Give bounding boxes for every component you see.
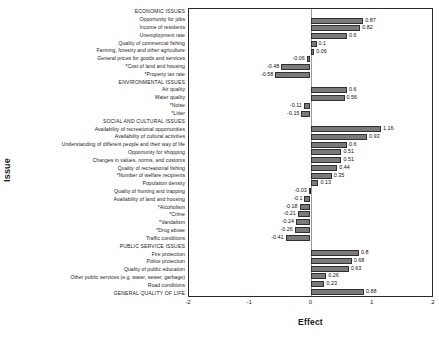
bar-row: -0.58 xyxy=(189,71,432,79)
bar-value-label: 0.1 xyxy=(319,41,327,46)
bar-row: 0.26 xyxy=(189,273,432,281)
bar-value-label: 0.51 xyxy=(343,157,354,162)
category-label: Opportunity for shopping xyxy=(12,149,187,157)
bar-row: 0.1 xyxy=(189,40,432,48)
bar-value-label: 0.88 xyxy=(366,289,377,294)
bar-row: -0.21 xyxy=(189,211,432,219)
bar-row xyxy=(189,9,432,17)
bar xyxy=(311,95,345,101)
category-label: Availability of land and housing xyxy=(12,196,187,204)
category-label: Quality of commercial fishing xyxy=(12,39,187,47)
bar xyxy=(275,72,310,78)
bar-row: 0.6 xyxy=(189,32,432,40)
bar xyxy=(311,25,361,31)
category-label: Police protection xyxy=(12,258,187,266)
bar-row: 0.51 xyxy=(189,149,432,157)
category-label: Traffic conditions xyxy=(12,235,187,243)
bar-value-label: 0.23 xyxy=(326,281,337,286)
bar xyxy=(295,227,311,233)
bar xyxy=(296,219,311,225)
bar-value-label: 0.26 xyxy=(328,274,339,279)
bar-value-label: -0.24 xyxy=(282,219,294,224)
bar-row: 0.06 xyxy=(189,48,432,56)
category-label: *Number of welfare recipients xyxy=(12,172,187,180)
bar-value-label: 0.13 xyxy=(320,181,331,186)
bar xyxy=(311,49,315,55)
bar xyxy=(311,258,352,264)
category-label: SOCIAL AND CULTURAL ISSUES xyxy=(12,117,187,125)
x-axis-tick-label: 0 xyxy=(309,299,312,305)
bar-value-label: 0.8 xyxy=(361,250,369,255)
bar-value-label: 0.35 xyxy=(334,173,345,178)
bar-row: 0.13 xyxy=(189,180,432,188)
bar xyxy=(311,134,367,140)
bar-value-label: -0.26 xyxy=(280,227,292,232)
bar-row: 0.68 xyxy=(189,257,432,265)
bar xyxy=(311,157,342,163)
category-label: *Cost of land and housing xyxy=(12,63,187,71)
bar xyxy=(311,33,347,39)
bar-row: -0.06 xyxy=(189,56,432,64)
bar-value-label: -0.06 xyxy=(293,57,305,62)
bar-row: 0.87 xyxy=(189,17,432,25)
bar-row xyxy=(189,118,432,126)
bar-row: -0.03 xyxy=(189,187,432,195)
category-label: Air quality xyxy=(12,86,187,94)
category-label: Income of residents xyxy=(12,24,187,32)
bar-row: 0.8 xyxy=(189,249,432,257)
bar-value-label: 0.51 xyxy=(343,150,354,155)
bar-value-label: 0.56 xyxy=(347,95,358,100)
category-label: General prices for goods and services xyxy=(12,55,187,63)
category-label: Water quality xyxy=(12,94,187,102)
category-label: Fire protection xyxy=(12,250,187,258)
bar-row: 0.93 xyxy=(189,133,432,141)
category-label: ECONOMIC ISSUES xyxy=(12,8,187,16)
x-axis-ticks: -2-1012 xyxy=(188,299,433,311)
category-label: Availability of recreational opportuniti… xyxy=(12,125,187,133)
category-label: *Vandalism xyxy=(12,219,187,227)
bar xyxy=(307,56,311,62)
bar xyxy=(281,64,310,70)
category-label: *Property tax rate xyxy=(12,71,187,79)
bar-row: 0.6 xyxy=(189,87,432,95)
category-label: PUBLIC SERVICE ISSUES xyxy=(12,242,187,250)
bar xyxy=(304,103,311,109)
bar-row: 0.88 xyxy=(189,288,432,296)
bar-row: -0.18 xyxy=(189,203,432,211)
bar-chart: Issue ECONOMIC ISSUESOpportunity for job… xyxy=(0,0,439,339)
bar-row: 0.23 xyxy=(189,280,432,288)
plot-area: 0.870.820.60.10.06-0.06-0.48-0.580.60.56… xyxy=(188,8,433,297)
bar-value-label: 0.44 xyxy=(339,165,350,170)
bar-value-label: -0.41 xyxy=(271,235,283,240)
bar-row: 1.16 xyxy=(189,125,432,133)
bar xyxy=(298,211,311,217)
bar-row: -0.48 xyxy=(189,63,432,71)
bar xyxy=(311,126,381,132)
bar-value-label: -0.58 xyxy=(261,72,273,77)
bar-value-label: -0.03 xyxy=(294,188,306,193)
bar xyxy=(311,87,347,93)
bar xyxy=(304,196,310,202)
bar xyxy=(311,273,327,279)
category-label: GENERAL QUALITY OF LIFE xyxy=(12,289,187,297)
bar-row: 0.56 xyxy=(189,94,432,102)
bar-row xyxy=(189,242,432,250)
category-label: Farming, forestry and other agriculture xyxy=(12,47,187,55)
bar xyxy=(286,235,311,241)
x-axis-title: Effect xyxy=(188,317,433,327)
bar-row: 0.6 xyxy=(189,141,432,149)
bar xyxy=(311,149,342,155)
bar xyxy=(311,289,364,295)
bar xyxy=(311,18,364,24)
bar-value-label: -0.18 xyxy=(285,204,297,209)
bar-row: 0.82 xyxy=(189,25,432,33)
bar xyxy=(311,250,360,256)
category-label: ENVIRONMENTAL ISSUES xyxy=(12,78,187,86)
x-axis-tick-label: -2 xyxy=(185,299,190,305)
bar xyxy=(311,165,338,171)
bar xyxy=(311,266,349,272)
bar-row: -0.15 xyxy=(189,110,432,118)
category-label: *Crime xyxy=(12,211,187,219)
bar-row: 0.44 xyxy=(189,164,432,172)
category-label: Quality of hunting and trapping xyxy=(12,188,187,196)
